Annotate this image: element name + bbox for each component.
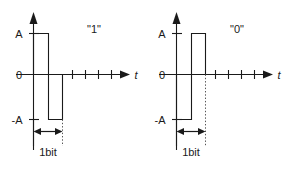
waveform-panel-one: A 0 -A t 1bit "1" — [0, 0, 142, 172]
label-bit-duration-one: 1bit — [39, 146, 57, 158]
label-amplitude-zero: A — [158, 28, 166, 40]
waveform-panel-zero: A 0 -A t 1bit "0" — [143, 0, 285, 172]
label-negative-amplitude-one: -A — [12, 114, 24, 126]
label-symbol-zero: "0" — [230, 23, 244, 35]
manchester-encoding-figure: A 0 -A t 1bit "1" — [0, 0, 285, 172]
waveform-trace-one — [34, 34, 63, 120]
waveform-trace-zero — [177, 34, 206, 120]
label-amplitude-one: A — [15, 28, 23, 40]
bit-dimension-arrow-zero — [177, 128, 206, 135]
label-time-axis-one: t — [134, 69, 138, 81]
label-bit-duration-zero: 1bit — [182, 146, 200, 158]
label-negative-amplitude-zero: -A — [155, 114, 167, 126]
bit-dimension-arrow-one — [34, 128, 63, 135]
label-symbol-one: "1" — [87, 23, 101, 35]
label-zero-zero: 0 — [159, 69, 165, 81]
label-time-axis-zero: t — [277, 69, 281, 81]
label-zero-one: 0 — [16, 69, 22, 81]
